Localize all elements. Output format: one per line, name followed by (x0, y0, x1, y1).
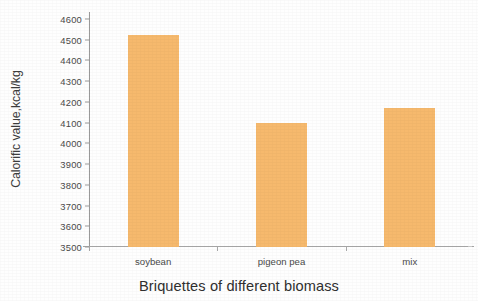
x-axis-tick-mark (346, 246, 347, 251)
x-axis-title-text: Briquettes of different biomass (139, 278, 339, 294)
y-axis-tick-mark (85, 101, 90, 102)
bar-chart-figure: Calorific value,kcal/kg 4600450044004300… (0, 0, 478, 301)
x-axis-tick-label: mix (402, 256, 417, 267)
y-axis-tick-label: 4000 (60, 138, 82, 149)
y-axis-tick-label: 3600 (60, 221, 82, 232)
x-axis-title: Briquettes of different biomass (0, 278, 478, 294)
x-axis-tick-mark (217, 246, 218, 251)
x-axis-tick-labels: soybeanpigeon peamix (89, 256, 474, 272)
y-axis-tick-mark (85, 81, 90, 82)
y-axis-tick-mark (85, 39, 90, 40)
y-axis-tick-label: 4100 (60, 117, 82, 128)
y-axis-title: Calorific value,kcal/kg (4, 0, 28, 258)
bar (128, 35, 179, 247)
y-axis-tick-label: 4200 (60, 96, 82, 107)
x-axis-tick-mark (89, 246, 90, 251)
x-axis-tick-label: soybean (135, 256, 171, 267)
y-axis-tick-label: 4600 (60, 14, 82, 25)
y-axis-tick-mark (85, 143, 90, 144)
bar (256, 123, 307, 247)
y-axis-tick-mark (85, 122, 90, 123)
y-axis-tick-mark (85, 19, 90, 20)
y-axis-line (89, 12, 90, 248)
bar (384, 108, 435, 247)
x-axis-line-extension (468, 246, 472, 247)
y-axis-tick-label: 3900 (60, 159, 82, 170)
plot-area (89, 19, 474, 247)
x-axis-tick-label: pigeon pea (258, 256, 305, 267)
y-axis-tick-mark (85, 205, 90, 206)
y-axis-tick-mark (85, 164, 90, 165)
y-axis-tick-label: 3700 (60, 200, 82, 211)
y-axis-tick-label: 3800 (60, 179, 82, 190)
y-axis-tick-mark (85, 184, 90, 185)
y-axis-tick-labels: 4600450044004300420041004000390038003700… (40, 0, 85, 301)
y-axis-tick-label: 3500 (60, 242, 82, 253)
y-axis-tick-label: 4300 (60, 76, 82, 87)
y-axis-title-text: Calorific value,kcal/kg (9, 70, 23, 188)
y-axis-tick-mark (85, 60, 90, 61)
y-axis-tick-mark (85, 226, 90, 227)
y-axis-tick-label: 4400 (60, 55, 82, 66)
y-axis-tick-label: 4500 (60, 34, 82, 45)
